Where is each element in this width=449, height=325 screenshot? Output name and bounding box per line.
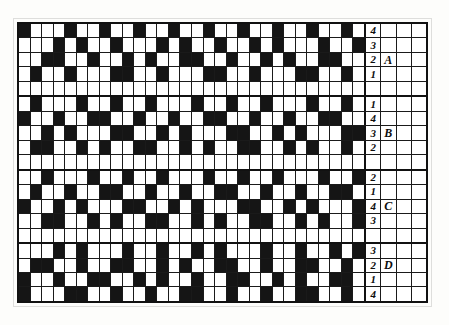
draft-cell-empty[interactable] <box>146 67 158 80</box>
draft-cell-empty[interactable] <box>307 229 319 242</box>
draft-cell-empty[interactable] <box>65 82 77 95</box>
draft-cell-empty[interactable] <box>238 287 250 300</box>
label-blank-cell[interactable] <box>397 112 412 125</box>
draft-cell-empty[interactable] <box>204 155 216 168</box>
draft-cell-empty[interactable] <box>169 141 181 154</box>
draft-cell-empty[interactable] <box>88 287 100 300</box>
draft-cell-empty[interactable] <box>215 171 227 184</box>
draft-cell-empty[interactable] <box>111 229 123 242</box>
draft-cell-empty[interactable] <box>134 287 146 300</box>
draft-cell-filled[interactable] <box>180 38 192 51</box>
draft-cell-filled[interactable] <box>180 185 192 198</box>
draft-cell-empty[interactable] <box>342 214 354 227</box>
draft-cell-empty[interactable] <box>250 171 262 184</box>
draft-cell-filled[interactable] <box>77 244 89 257</box>
draft-cell-filled[interactable] <box>284 53 296 66</box>
draft-cell-empty[interactable] <box>88 126 100 139</box>
draft-cell-empty[interactable] <box>261 273 273 286</box>
draft-cell-filled[interactable] <box>215 244 227 257</box>
draft-cell-empty[interactable] <box>157 287 169 300</box>
draft-cell-filled[interactable] <box>319 38 331 51</box>
draft-cell-empty[interactable] <box>284 24 296 37</box>
draft-cell-filled[interactable] <box>215 112 227 125</box>
draft-cell-empty[interactable] <box>353 82 364 95</box>
draft-cell-empty[interactable] <box>54 67 66 80</box>
draft-cell-empty[interactable] <box>123 214 135 227</box>
draft-cell-filled[interactable] <box>273 126 285 139</box>
draft-cell-filled[interactable] <box>215 259 227 272</box>
label-blank-cell[interactable] <box>412 185 426 198</box>
draft-cell-empty[interactable] <box>273 67 285 80</box>
draft-cell-empty[interactable] <box>180 214 192 227</box>
draft-cell-empty[interactable] <box>250 244 262 257</box>
label-blank-cell[interactable] <box>412 259 426 272</box>
draft-cell-empty[interactable] <box>284 38 296 51</box>
label-blank-cell[interactable] <box>397 24 412 37</box>
draft-cell-empty[interactable] <box>77 185 89 198</box>
draft-cell-empty[interactable] <box>123 155 135 168</box>
draft-cell-empty[interactable] <box>42 155 54 168</box>
draft-cell-empty[interactable] <box>238 38 250 51</box>
draft-cell-empty[interactable] <box>330 155 342 168</box>
draft-cell-filled[interactable] <box>88 112 100 125</box>
label-blank-cell[interactable] <box>397 200 412 213</box>
draft-cell-empty[interactable] <box>42 97 54 110</box>
draft-cell-filled[interactable] <box>261 259 273 272</box>
draft-cell-empty[interactable] <box>100 155 112 168</box>
draft-cell-empty[interactable] <box>134 171 146 184</box>
label-blank-cell[interactable] <box>412 112 426 125</box>
draft-cell-empty[interactable] <box>273 53 285 66</box>
draft-cell-filled[interactable] <box>42 53 54 66</box>
label-blank-cell[interactable] <box>412 53 426 66</box>
draft-cell-empty[interactable] <box>146 259 158 272</box>
draft-cell-empty[interactable] <box>169 244 181 257</box>
draft-cell-empty[interactable] <box>296 82 308 95</box>
label-blank-cell[interactable] <box>412 155 426 168</box>
draft-cell-filled[interactable] <box>342 24 354 37</box>
draft-cell-empty[interactable] <box>88 229 100 242</box>
draft-cell-empty[interactable] <box>31 273 43 286</box>
draft-cell-empty[interactable] <box>330 67 342 80</box>
draft-cell-empty[interactable] <box>157 229 169 242</box>
draft-cell-filled[interactable] <box>111 287 123 300</box>
draft-cell-empty[interactable] <box>192 126 204 139</box>
draft-cell-empty[interactable] <box>19 82 31 95</box>
draft-cell-empty[interactable] <box>65 244 77 257</box>
draft-cell-filled[interactable] <box>65 126 77 139</box>
draft-cell-empty[interactable] <box>250 185 262 198</box>
draft-cell-empty[interactable] <box>215 126 227 139</box>
draft-cell-filled[interactable] <box>204 112 216 125</box>
label-blank-cell[interactable] <box>397 67 412 80</box>
draft-cell-empty[interactable] <box>273 82 285 95</box>
draft-cell-empty[interactable] <box>284 185 296 198</box>
draft-cell-empty[interactable] <box>342 171 354 184</box>
draft-cell-empty[interactable] <box>353 259 364 272</box>
draft-cell-empty[interactable] <box>134 53 146 66</box>
draft-cell-empty[interactable] <box>169 171 181 184</box>
draft-cell-empty[interactable] <box>227 244 239 257</box>
draft-cell-empty[interactable] <box>169 287 181 300</box>
draft-cell-empty[interactable] <box>100 82 112 95</box>
draft-cell-filled[interactable] <box>353 214 364 227</box>
draft-cell-filled[interactable] <box>353 38 364 51</box>
draft-cell-filled[interactable] <box>238 171 250 184</box>
draft-cell-filled[interactable] <box>54 200 66 213</box>
draft-cell-empty[interactable] <box>238 82 250 95</box>
draft-cell-empty[interactable] <box>284 287 296 300</box>
label-blank-cell[interactable] <box>397 126 412 139</box>
draft-cell-filled[interactable] <box>330 273 342 286</box>
draft-cell-filled[interactable] <box>296 259 308 272</box>
draft-cell-filled[interactable] <box>123 171 135 184</box>
draft-cell-empty[interactable] <box>134 82 146 95</box>
draft-cell-empty[interactable] <box>42 200 54 213</box>
draft-cell-empty[interactable] <box>330 200 342 213</box>
draft-cell-filled[interactable] <box>134 24 146 37</box>
label-blank-cell[interactable] <box>412 287 426 300</box>
draft-cell-empty[interactable] <box>111 171 123 184</box>
draft-cell-empty[interactable] <box>111 244 123 257</box>
draft-cell-empty[interactable] <box>19 185 31 198</box>
draft-cell-empty[interactable] <box>273 155 285 168</box>
draft-cell-filled[interactable] <box>31 141 43 154</box>
draft-cell-empty[interactable] <box>227 24 239 37</box>
draft-cell-empty[interactable] <box>215 53 227 66</box>
